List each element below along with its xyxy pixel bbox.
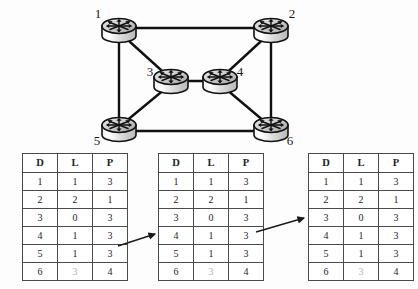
cell-p: 3 bbox=[229, 173, 264, 191]
router-icon bbox=[102, 118, 136, 142]
column-header-d: D bbox=[309, 154, 344, 173]
cell-d: 3 bbox=[309, 209, 344, 227]
router-node-2[interactable] bbox=[254, 19, 288, 43]
router-node-1[interactable] bbox=[102, 19, 136, 43]
cell-d: 4 bbox=[23, 227, 58, 245]
cell-l: 1 bbox=[58, 173, 93, 191]
router-icon bbox=[254, 19, 288, 43]
column-header-l: L bbox=[194, 154, 229, 173]
router-node-5[interactable] bbox=[102, 118, 136, 142]
column-header-l: L bbox=[58, 154, 93, 173]
cell-d: 2 bbox=[23, 191, 58, 209]
table-row: 1 1 3 bbox=[159, 173, 264, 191]
router-label-5: 5 bbox=[94, 133, 101, 148]
cell-p: 3 bbox=[93, 209, 128, 227]
table-row: 2 2 1 bbox=[23, 191, 128, 209]
routing-table-2: D L P 1 1 3 2 2 1 3 0 3 4 1 bbox=[158, 153, 264, 281]
routing-table-3: D L P 1 1 3 2 2 1 3 0 3 4 1 bbox=[308, 153, 414, 281]
routing-table-1: D L P 1 1 3 2 2 1 3 0 3 4 1 bbox=[22, 153, 128, 281]
cell-l: 2 bbox=[58, 191, 93, 209]
column-header-d: D bbox=[23, 154, 58, 173]
cell-l: 1 bbox=[58, 227, 93, 245]
cell-d: 6 bbox=[309, 263, 344, 281]
table-header-row: D L P bbox=[23, 154, 128, 173]
router-label-3: 3 bbox=[147, 64, 154, 79]
table-row: 4 1 3 bbox=[159, 227, 264, 245]
table-row: 6 3 4 bbox=[159, 263, 264, 281]
cell-d: 3 bbox=[159, 209, 194, 227]
column-header-l: L bbox=[344, 154, 379, 173]
cell-p: 3 bbox=[229, 245, 264, 263]
router-label-6: 6 bbox=[287, 133, 294, 148]
cell-l: 1 bbox=[344, 173, 379, 191]
table-row: 4 1 3 bbox=[23, 227, 128, 245]
cell-d: 3 bbox=[23, 209, 58, 227]
cell-p: 4 bbox=[229, 263, 264, 281]
cell-p: 1 bbox=[229, 191, 264, 209]
router-icon bbox=[102, 19, 136, 43]
cell-d: 4 bbox=[159, 227, 194, 245]
cell-d: 1 bbox=[23, 173, 58, 191]
cell-p: 3 bbox=[93, 173, 128, 191]
cell-p: 3 bbox=[379, 209, 414, 227]
cell-d: 5 bbox=[23, 245, 58, 263]
router-node-4[interactable] bbox=[203, 70, 237, 94]
topology-links bbox=[119, 28, 271, 131]
cell-l: 0 bbox=[194, 209, 229, 227]
table-row: 5 1 3 bbox=[23, 245, 128, 263]
table-row: 5 1 3 bbox=[309, 245, 414, 263]
cell-p: 3 bbox=[93, 227, 128, 245]
table-row: 3 0 3 bbox=[309, 209, 414, 227]
cell-p: 3 bbox=[379, 173, 414, 191]
network-topology-diagram: 1 2 3 4 5 6 bbox=[0, 0, 418, 150]
table-row: 6 3 4 bbox=[309, 263, 414, 281]
cell-d: 1 bbox=[159, 173, 194, 191]
cell-l: 1 bbox=[344, 227, 379, 245]
cell-l: 1 bbox=[194, 227, 229, 245]
cell-l: 2 bbox=[194, 191, 229, 209]
cell-d: 2 bbox=[309, 191, 344, 209]
router-node-6[interactable] bbox=[254, 118, 288, 142]
cell-l: 1 bbox=[344, 245, 379, 263]
router-icon bbox=[154, 70, 188, 94]
table-row: 1 1 3 bbox=[23, 173, 128, 191]
cell-d: 5 bbox=[309, 245, 344, 263]
cell-p: 3 bbox=[379, 227, 414, 245]
table-row: 3 0 3 bbox=[159, 209, 264, 227]
cell-d: 6 bbox=[159, 263, 194, 281]
router-label-4: 4 bbox=[237, 64, 244, 79]
cell-d: 1 bbox=[309, 173, 344, 191]
cell-p: 1 bbox=[93, 191, 128, 209]
column-header-p: P bbox=[229, 154, 264, 173]
cell-l: 3 bbox=[58, 263, 93, 281]
table-row: 6 3 4 bbox=[23, 263, 128, 281]
table-row: 5 1 3 bbox=[159, 245, 264, 263]
cell-l: 0 bbox=[344, 209, 379, 227]
column-header-p: P bbox=[93, 154, 128, 173]
cell-l: 1 bbox=[194, 173, 229, 191]
cell-p: 3 bbox=[229, 227, 264, 245]
router-icon bbox=[254, 118, 288, 142]
column-header-p: P bbox=[379, 154, 414, 173]
cell-p: 3 bbox=[93, 245, 128, 263]
router-node-3[interactable] bbox=[154, 70, 188, 94]
router-icon bbox=[203, 70, 237, 94]
table-header-row: D L P bbox=[309, 154, 414, 173]
cell-l: 1 bbox=[58, 245, 93, 263]
column-header-d: D bbox=[159, 154, 194, 173]
cell-d: 2 bbox=[159, 191, 194, 209]
table-row: 2 2 1 bbox=[309, 191, 414, 209]
table-row: 1 1 3 bbox=[309, 173, 414, 191]
cell-l: 1 bbox=[194, 245, 229, 263]
cell-d: 4 bbox=[309, 227, 344, 245]
cell-l: 0 bbox=[58, 209, 93, 227]
router-label-2: 2 bbox=[289, 6, 296, 21]
router-label-1: 1 bbox=[95, 6, 102, 21]
cell-l: 3 bbox=[194, 263, 229, 281]
cell-p: 1 bbox=[379, 191, 414, 209]
cell-p: 4 bbox=[93, 263, 128, 281]
table-row: 3 0 3 bbox=[23, 209, 128, 227]
table-header-row: D L P bbox=[159, 154, 264, 173]
cell-d: 6 bbox=[23, 263, 58, 281]
figure-canvas: 1 2 3 4 5 6 D L P 1 1 3 2 bbox=[0, 0, 418, 289]
